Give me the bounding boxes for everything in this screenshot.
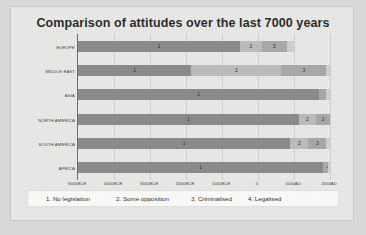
bar-segment: 3 [316,114,330,125]
x-axis-tick: 1000BCE [212,181,231,186]
x-axis-tick: 4000BCE [104,181,123,186]
chart-plot-area: 123412341341231234134 5000BCE4000BCE3000… [19,34,347,184]
gridline [222,34,223,180]
bar-row: 134 [78,162,329,173]
legend-item: 1. No legislation [46,195,90,202]
chart-axes: 123412341341231234134 [77,34,329,180]
legend-item: 2. Some opposition [116,195,169,202]
category-label: ASIA [19,93,75,98]
bar-segment: 2 [290,138,308,149]
bar-segment: 1 [78,114,299,125]
category-label: EUROPE [19,44,75,49]
bar-segment: 1 [78,138,290,149]
bar-segment: 1 [78,65,191,76]
x-axis-tick: 5000BCE [68,181,87,186]
legend-item: 4. Legalised [248,195,281,202]
category-label: AFRICA [19,166,75,171]
bar-row: 1234 [78,138,329,149]
slide-frame: Comparison of attitudes over the last 70… [10,6,354,221]
bar-segment: 2 [299,114,315,125]
bar-segment: 1 [78,89,319,100]
gridline [294,34,295,180]
bar-segment: 3 [281,65,326,76]
bar-segment [326,138,330,149]
bar-segment: 2 [191,65,281,76]
bar-segment: 1 [78,162,323,173]
gridline [186,34,187,180]
x-axis-tick: 3000BCE [140,181,159,186]
bar-segment: 2 [240,41,262,52]
bar-segment [287,41,294,52]
x-axis-tick: 2000AD [321,181,337,186]
category-label: NORTH AMERICA [19,117,75,122]
bar-segment: 3 [262,41,287,52]
x-axis-tick: 2000BCE [176,181,195,186]
bar-row: 1234 [78,41,329,52]
x-axis-tick: 0 [256,181,258,186]
chart-legend: 1. No legislation2. Some opposition3. Cr… [27,190,339,207]
gridline [258,34,259,180]
bar-segment: 3 [308,138,326,149]
bar-segment [326,89,330,100]
category-label: SOUTH AMERICA [19,142,75,147]
legend-item: 3. Criminalised [191,195,232,202]
gridline [150,34,151,180]
bar-row: 123 [78,114,329,125]
chart-title: Comparison of attitudes over the last 70… [11,16,355,30]
gridline [330,34,331,180]
bar-row: 1234 [78,65,329,76]
category-label: MIDDLE EAST [19,69,75,74]
bar-segment [328,162,330,173]
gridline [114,34,115,180]
bar-segment [326,65,330,76]
bar-segment: 1 [78,41,240,52]
x-axis-tick: 1000AD [285,181,301,186]
bar-row: 134 [78,89,329,100]
